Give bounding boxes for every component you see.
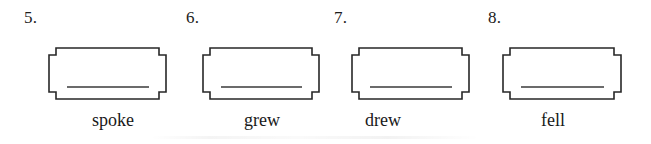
exercise-word-label: fell [493, 108, 613, 132]
exercise-number: 8. [488, 8, 501, 28]
exercise-item: 8.fell [0, 0, 651, 144]
answer-box-outline [503, 48, 621, 99]
worksheet-page: 5.spoke6.grew7.drew8.fell [0, 0, 651, 144]
answer-box[interactable] [501, 46, 623, 101]
